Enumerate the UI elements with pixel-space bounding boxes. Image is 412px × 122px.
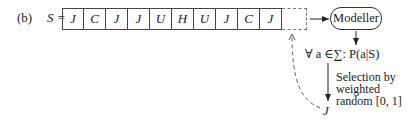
dashed-feedback-arrow <box>292 34 320 108</box>
connector-arrows <box>0 0 412 122</box>
